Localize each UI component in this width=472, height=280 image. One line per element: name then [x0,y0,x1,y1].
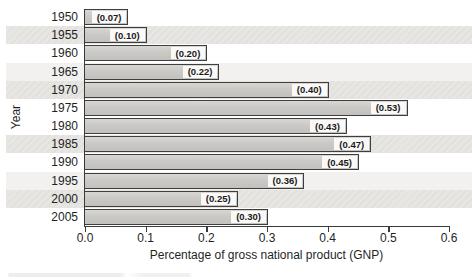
bar-1995: (0.36) [84,173,304,189]
bar-value-label: (0.40) [292,84,327,96]
year-label-1950: 1950 [0,8,78,26]
year-label-1960: 1960 [0,44,78,62]
bar-value-label: (0.43) [310,120,345,132]
bar-2000: (0.25) [84,191,238,207]
cropped-caption-remnant [8,273,213,277]
y-axis-title: Year [10,105,22,129]
bar-1965: (0.22) [84,64,219,80]
bar-value-label: (0.53) [371,102,406,114]
x-axis-title: Percentage of gross national product (GN… [84,249,449,261]
bar-value-label: (0.22) [183,66,218,78]
x-tick-label: 0.1 [129,232,163,244]
bar-1960: (0.20) [84,45,207,61]
bar-1980: (0.43) [84,118,347,134]
y-axis-line [84,9,85,226]
bar-value-label: (0.07) [92,11,127,23]
bar-value-label: (0.20) [171,47,206,59]
bar-1975: (0.53) [84,100,408,116]
bar-1950: (0.07) [84,9,128,25]
year-label-1985: 1985 [0,135,78,153]
bar-value-label: (0.30) [231,211,266,223]
bar-value-label: (0.45) [322,156,357,168]
bar-value-label: (0.36) [268,175,303,187]
gnp-bar-chart: 1950(0.07)1955(0.10)1960(0.20)1965(0.22)… [0,0,472,280]
year-label-2000: 2000 [0,190,78,208]
bar-value-label: (0.10) [110,29,145,41]
x-tick-label: 0.5 [371,232,405,244]
x-tick-label: 0.6 [432,232,466,244]
x-tick-label: 0.0 [68,232,102,244]
bar-value-label: (0.25) [201,193,236,205]
year-label-1955: 1955 [0,26,78,44]
bar-1985: (0.47) [84,136,371,152]
year-label-2005: 2005 [0,208,78,226]
year-label-1970: 1970 [0,81,78,99]
year-label-1965: 1965 [0,63,78,81]
x-tick-label: 0.4 [311,232,345,244]
x-tick-label: 0.3 [250,232,284,244]
x-tick-label: 0.2 [189,232,223,244]
bar-1990: (0.45) [84,154,359,170]
bar-1970: (0.40) [84,82,329,98]
bar-1955: (0.10) [84,27,147,43]
bar-value-label: (0.47) [334,138,369,150]
year-label-1995: 1995 [0,172,78,190]
bar-2005: (0.30) [84,209,268,225]
year-label-1990: 1990 [0,153,78,171]
